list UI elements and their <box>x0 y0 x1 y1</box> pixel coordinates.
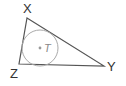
vertex-label-y: Y <box>107 59 116 74</box>
triangle-diagram: X Y Z T <box>0 0 126 86</box>
incenter-label-t: T <box>44 42 52 54</box>
triangle-xyz <box>19 18 104 66</box>
vertex-label-z: Z <box>10 66 18 81</box>
vertex-label-x: X <box>23 1 32 16</box>
incenter-dot <box>39 47 42 50</box>
